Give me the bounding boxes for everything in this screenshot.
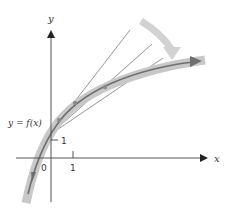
y-axis-label: y xyxy=(47,13,54,24)
origin-label: 0 xyxy=(41,163,47,173)
tangent-diagram: y x 0 1 1 y = f(x) xyxy=(0,0,230,211)
point-2 xyxy=(103,85,107,89)
x-axis-label: x xyxy=(214,153,220,164)
x-tick-label: 1 xyxy=(70,163,76,173)
curve-label: y = f(x) xyxy=(7,118,42,128)
motion-arrow-icon xyxy=(141,21,181,60)
point-1 xyxy=(73,101,77,105)
point-0 xyxy=(57,118,61,122)
y-tick-label: 1 xyxy=(61,136,67,146)
